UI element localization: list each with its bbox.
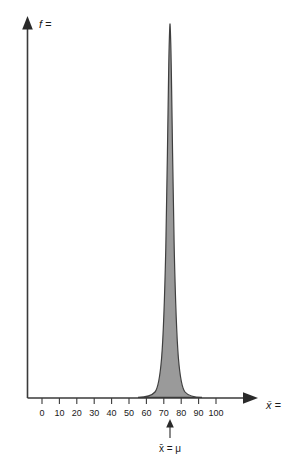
x-tick-label: 30 (89, 408, 99, 418)
x-tick-label: 70 (159, 408, 169, 418)
x-tick-label: 80 (176, 408, 186, 418)
sampling-distribution-chart: f = x̄ = 0 10 20 30 40 50 60 70 80 90 10… (0, 0, 298, 466)
x-tick-label: 10 (54, 408, 64, 418)
x-tick-label: 20 (72, 408, 82, 418)
x-tick-label: 100 (208, 408, 223, 418)
x-tick-label: 0 (39, 408, 44, 418)
x-tick-label: 50 (124, 408, 134, 418)
x-tick-label: 40 (107, 408, 117, 418)
y-axis-label: f = (39, 18, 52, 30)
x-tick-label: 90 (194, 408, 204, 418)
x-axis-label: x̄ = (265, 399, 282, 411)
mean-annotation-label: x̄ = μ (159, 443, 181, 454)
x-tick-label: 60 (141, 408, 151, 418)
